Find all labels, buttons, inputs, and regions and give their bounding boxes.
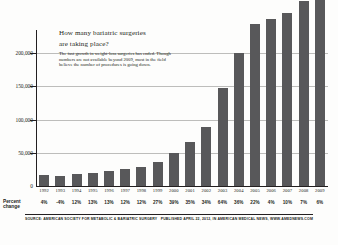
x-axis-tick-label: 2007	[279, 188, 295, 193]
x-axis-tick-label: 2009	[312, 188, 328, 193]
bar-fill	[120, 169, 130, 186]
x-axis-tick-label: 2004	[231, 188, 247, 193]
percent-change-value: 13%	[101, 200, 117, 205]
bar	[55, 176, 65, 186]
x-axis-tick-label: 1993	[52, 188, 68, 193]
bar-fill	[185, 142, 195, 186]
percent-change-value: 39%	[166, 200, 182, 205]
bar	[185, 142, 195, 186]
bar-fill	[169, 153, 179, 186]
bar	[315, 0, 325, 186]
x-axis-tick-label: 2003	[214, 188, 230, 193]
percent-change-value: 27%	[150, 200, 166, 205]
percent-change-value: 22%	[247, 200, 263, 205]
bar-fill	[88, 173, 98, 186]
publication-credit: PUBLISHED APRIL 22, 2012, IN AMERICAN ME…	[161, 217, 313, 221]
percent-change-value: 35%	[182, 200, 198, 205]
bar	[218, 88, 228, 186]
x-axis-line	[36, 186, 328, 187]
page-title-line2: are taking place?	[59, 40, 109, 48]
percent-change-value: 4%	[36, 200, 52, 205]
x-axis-tick-label: 1997	[117, 188, 133, 193]
page-title-line1: How many bariatric surgeries	[59, 29, 146, 37]
x-axis-tick-label: 2002	[198, 188, 214, 193]
bar-fill	[282, 13, 292, 186]
x-axis-tick-label: 1995	[85, 188, 101, 193]
x-axis-labels: 1992199319941995199619971998199920002001…	[36, 188, 328, 198]
page-title: How many bariatric surgeries are taking …	[59, 28, 179, 49]
footer-divider	[25, 214, 313, 215]
x-axis-tick-label: 1994	[68, 188, 84, 193]
x-axis-tick-label: 1999	[150, 188, 166, 193]
percent-change-values: 4%-4%12%13%13%12%12%27%39%35%34%64%36%22…	[36, 200, 328, 210]
bar	[169, 153, 179, 186]
bar-fill	[315, 0, 325, 186]
percent-change-label-line2: change	[3, 204, 35, 209]
bar-fill	[218, 88, 228, 186]
x-axis-tick-label: 2001	[182, 188, 198, 193]
source-credit: SOURCE: AMERICAN SOCIETY FOR METABOLIC &…	[25, 217, 157, 221]
bar-fill	[39, 175, 49, 186]
bar-fill	[72, 174, 82, 186]
bar	[88, 173, 98, 186]
bar	[201, 127, 211, 186]
bar	[104, 171, 114, 186]
percent-change-value: 7%	[296, 200, 312, 205]
x-axis-tick-label: 2006	[263, 188, 279, 193]
percent-change-value: 64%	[214, 200, 230, 205]
bar	[120, 169, 130, 186]
percent-change-value: 36%	[231, 200, 247, 205]
percent-change-value: 4%	[263, 200, 279, 205]
bar-fill	[104, 171, 114, 186]
bar	[72, 174, 82, 186]
bar	[136, 167, 146, 186]
percent-change-value: 12%	[117, 200, 133, 205]
bar-fill	[234, 53, 244, 186]
bar-fill	[153, 162, 163, 186]
headline-block: How many bariatric surgeries are taking …	[59, 28, 179, 67]
bar-fill	[266, 19, 276, 186]
x-axis-tick-label: 2005	[247, 188, 263, 193]
bar	[153, 162, 163, 186]
x-axis-tick-label: 1996	[101, 188, 117, 193]
bar	[299, 1, 309, 186]
y-axis-tick-label: 0	[30, 183, 33, 189]
bar-fill	[201, 127, 211, 186]
bar	[39, 175, 49, 186]
x-axis-tick-label: 2000	[166, 188, 182, 193]
percent-change-value: 34%	[198, 200, 214, 205]
x-axis-tick-label: 1992	[36, 188, 52, 193]
bar	[282, 13, 292, 186]
x-axis-tick-label: 1998	[133, 188, 149, 193]
percent-change-value: 13%	[85, 200, 101, 205]
percent-change-value: 12%	[133, 200, 149, 205]
percent-change-row-label: Percent change	[3, 199, 35, 210]
bar-fill	[299, 1, 309, 186]
x-axis-tick-label: 2008	[296, 188, 312, 193]
y-axis-labels: 200,000150,000100,00050,0000	[0, 30, 33, 187]
bar	[234, 53, 244, 186]
bar	[266, 19, 276, 186]
percent-change-value: 12%	[68, 200, 84, 205]
percent-change-value: 10%	[279, 200, 295, 205]
percent-change-value: -4%	[52, 200, 68, 205]
bar	[250, 24, 260, 186]
bar-fill	[250, 24, 260, 186]
chart-page: 200,000150,000100,00050,0000 19921993199…	[0, 0, 338, 245]
bar-fill	[55, 176, 65, 186]
percent-change-value: 6%	[312, 200, 328, 205]
bar-fill	[136, 167, 146, 186]
headline-body: The fast growth in weight-loss surgeries…	[59, 51, 179, 67]
